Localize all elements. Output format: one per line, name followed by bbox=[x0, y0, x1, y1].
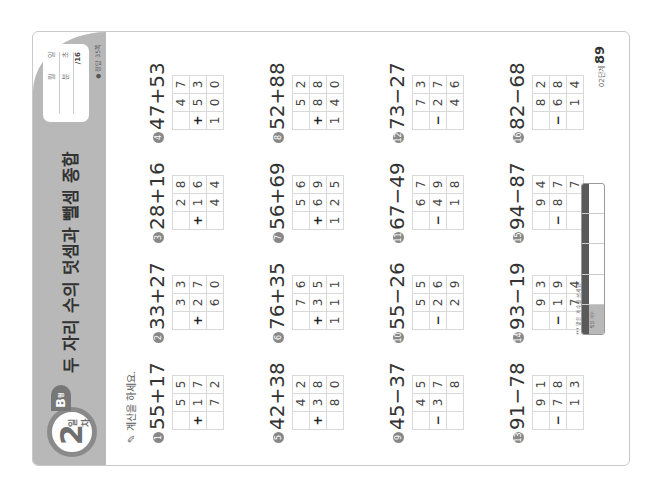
answer-cell[interactable]: 1 bbox=[327, 276, 344, 294]
digit-cell: 8 bbox=[550, 194, 567, 212]
digit-cell: 4 bbox=[173, 94, 190, 112]
problem-13: 1391−7891−7813 bbox=[505, 351, 584, 443]
digit-cell: 8 bbox=[310, 94, 327, 112]
digit-cell: 6 bbox=[310, 194, 327, 212]
answer-cell[interactable]: 0 bbox=[207, 94, 224, 112]
answer-cell[interactable]: 4 bbox=[207, 194, 224, 212]
digit-cell: 5 bbox=[293, 194, 310, 212]
answer-cell[interactable]: 9 bbox=[447, 276, 464, 294]
digit-cell: 2 bbox=[293, 376, 310, 394]
answer-cell[interactable]: 6 bbox=[207, 294, 224, 312]
answer-cell[interactable]: 2 bbox=[447, 294, 464, 312]
digit-cell: 2 bbox=[430, 94, 447, 112]
digit-cell bbox=[413, 312, 430, 330]
answer-cell[interactable]: 1 bbox=[327, 294, 344, 312]
answer-cell[interactable]: 1 bbox=[207, 112, 224, 130]
operator-cell: + bbox=[190, 412, 207, 430]
digit-cell: 7 bbox=[413, 94, 430, 112]
answer-cell[interactable] bbox=[447, 412, 464, 430]
digit-cell: 5 bbox=[413, 294, 430, 312]
answer-cell[interactable]: 2 bbox=[207, 376, 224, 394]
date-field[interactable]: 월 일 bbox=[46, 52, 60, 114]
problem-number-icon: 16 bbox=[513, 132, 524, 143]
answer-cell[interactable]: 4 bbox=[567, 76, 584, 94]
vertical-calc-grid: 55+1772 bbox=[172, 375, 224, 430]
digit-cell: 5 bbox=[293, 94, 310, 112]
vertical-calc-grid: 28+1644 bbox=[172, 175, 224, 230]
answer-cell[interactable] bbox=[207, 412, 224, 430]
digit-cell: 5 bbox=[310, 276, 327, 294]
vertical-calc-grid: 55−2629 bbox=[412, 275, 464, 330]
answer-cell[interactable]: 4 bbox=[327, 94, 344, 112]
operator-cell: + bbox=[190, 112, 207, 130]
vertical-calc-grid: 91−7813 bbox=[532, 375, 584, 430]
answer-cell[interactable]: 8 bbox=[447, 176, 464, 194]
time-field[interactable]: 분 초 bbox=[60, 52, 74, 114]
answer-cell[interactable]: 1 bbox=[327, 112, 344, 130]
answer-cell[interactable] bbox=[447, 112, 464, 130]
answer-cell[interactable]: 0 bbox=[207, 76, 224, 94]
problem-label: 1167−49 bbox=[385, 151, 409, 243]
digit-cell: 7 bbox=[430, 376, 447, 394]
digit-cell: 9 bbox=[533, 394, 550, 412]
answer-cell[interactable] bbox=[207, 212, 224, 230]
digit-cell bbox=[173, 212, 190, 230]
answer-cell[interactable]: 1 bbox=[567, 94, 584, 112]
page-number: 02단계 89 bbox=[592, 46, 607, 87]
digit-cell: 4 bbox=[533, 176, 550, 194]
answer-cell[interactable]: 4 bbox=[207, 176, 224, 194]
answer-cell[interactable]: 3 bbox=[567, 376, 584, 394]
problem-number-icon: 4 bbox=[153, 132, 164, 143]
digit-cell: 6 bbox=[413, 194, 430, 212]
answer-cell[interactable]: 8 bbox=[327, 394, 344, 412]
answer-cell[interactable]: 2 bbox=[327, 194, 344, 212]
vertical-calc-grid: 33+2760 bbox=[172, 275, 224, 330]
record-box: 월 일 분 초 /16 bbox=[43, 44, 89, 122]
problem-label: 1273−27 bbox=[385, 51, 409, 143]
answer-cell[interactable]: 1 bbox=[327, 212, 344, 230]
problem-number-icon: 2 bbox=[153, 332, 164, 343]
problem-4: 447+5347+53100 bbox=[145, 51, 224, 143]
answer-cell[interactable]: 1 bbox=[327, 312, 344, 330]
problem-label: 233+27 bbox=[145, 251, 169, 343]
answer-cell[interactable]: 8 bbox=[447, 376, 464, 394]
answer-cell[interactable]: 6 bbox=[447, 76, 464, 94]
digit-cell: 3 bbox=[190, 76, 207, 94]
vertical-calc-grid: 82−6814 bbox=[532, 75, 584, 130]
score-field[interactable]: /16 bbox=[74, 52, 87, 114]
vertical-calc-grid: 94−877 bbox=[532, 175, 584, 230]
digit-cell: 6 bbox=[550, 94, 567, 112]
problem-number-icon: 3 bbox=[153, 232, 164, 243]
answer-cell[interactable] bbox=[207, 312, 224, 330]
digit-cell: 7 bbox=[190, 276, 207, 294]
answer-cell[interactable] bbox=[567, 112, 584, 130]
score-table-cell bbox=[582, 274, 604, 304]
problem-number-icon: 10 bbox=[393, 332, 404, 343]
digit-cell bbox=[173, 112, 190, 130]
digit-cell bbox=[413, 212, 430, 230]
answer-cell[interactable]: 7 bbox=[207, 394, 224, 412]
digit-cell bbox=[533, 212, 550, 230]
answer-cell[interactable]: 5 bbox=[327, 176, 344, 194]
digit-cell bbox=[413, 412, 430, 430]
answer-cell[interactable] bbox=[567, 412, 584, 430]
score-table: 맞은 개수 bbox=[581, 183, 605, 335]
problem-label: 945−37 bbox=[385, 351, 409, 443]
answer-cell[interactable]: 0 bbox=[327, 76, 344, 94]
answer-cell[interactable] bbox=[327, 412, 344, 430]
answer-cell[interactable]: 4 bbox=[447, 94, 464, 112]
answer-cell[interactable]: 0 bbox=[207, 276, 224, 294]
level-letter: B bbox=[53, 398, 68, 408]
answer-cell[interactable] bbox=[447, 312, 464, 330]
answer-cell[interactable] bbox=[447, 212, 464, 230]
vertical-calc-grid: 42+3880 bbox=[292, 375, 344, 430]
answer-cell[interactable] bbox=[447, 394, 464, 412]
answer-cell[interactable]: 1 bbox=[567, 394, 584, 412]
digit-cell: 9 bbox=[310, 176, 327, 194]
answer-cell[interactable]: 1 bbox=[447, 194, 464, 212]
digit-cell: 5 bbox=[190, 94, 207, 112]
page-title: 두 자리 수의 덧셈과 뺄셈 종합 bbox=[57, 151, 82, 373]
problem-16: 1682−6882−6814 bbox=[505, 51, 584, 143]
digit-cell: 7 bbox=[173, 76, 190, 94]
answer-cell[interactable]: 0 bbox=[327, 376, 344, 394]
